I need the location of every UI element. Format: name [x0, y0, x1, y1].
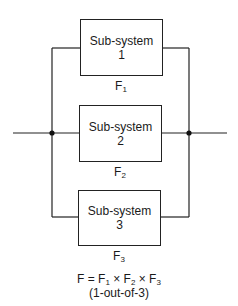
subsystem-3-number: 3	[116, 218, 123, 232]
subsystem-1-block: Sub-system 1	[80, 19, 163, 76]
right-junction-node	[186, 130, 191, 135]
subsystem-2-block: Sub-system 2	[79, 105, 162, 162]
left-junction-node	[49, 130, 54, 135]
subsystem-1-number: 1	[118, 48, 125, 62]
subsystem-2-number: 2	[117, 134, 124, 148]
failure-formula: F = F1 × F2 × F3	[0, 272, 238, 287]
subsystem-1-title: Sub-system	[90, 34, 153, 48]
subsystem-3-title: Sub-system	[88, 204, 151, 218]
subsystem-3-block: Sub-system 3	[78, 190, 161, 246]
subsystem-3-failure-label: F3	[89, 249, 149, 264]
formula-caption: (1-out-of-3)	[0, 286, 238, 300]
subsystem-1-failure-label: F1	[91, 79, 151, 94]
subsystem-2-failure-label: F2	[90, 165, 150, 180]
subsystem-2-title: Sub-system	[89, 120, 152, 134]
